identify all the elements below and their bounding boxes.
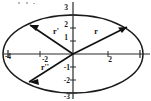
figure-canvas: -4 -2 2 3 2 1 -1 -2 -3 r r' r'' [0,0,151,101]
x-tick-label-pos2: 2 [108,55,112,64]
scan-speck [18,2,20,4]
scan-speck [26,2,28,4]
y-tick-label-pos3: 3 [64,3,68,12]
y-tick-label-neg2: -2 [64,76,70,85]
vector-r-double-prime-label: r'' [41,63,49,72]
ellipse-vector-figure: -4 -2 2 3 2 1 -1 -2 -3 r r' r'' [0,0,151,101]
vector-r-line [73,27,127,54]
vector-r-label: r [94,27,98,36]
vector-r-double-prime-arrowhead [29,79,39,85]
vector-r-prime-label: r' [53,27,59,36]
scan-speck [33,3,35,4]
y-tick-label-neg3: -3 [64,92,70,101]
x-tick-label-neg4: -4 [5,52,11,61]
y-tick-label-pos1: 1 [64,33,68,42]
y-tick-label-neg1: -1 [64,63,70,72]
y-tick-label-pos2: 2 [64,20,68,29]
